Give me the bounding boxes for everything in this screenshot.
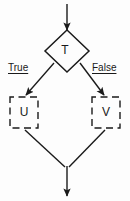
edge-label-false: False	[92, 62, 116, 73]
decision-label-t: T	[0, 44, 130, 56]
edge-label-true: True	[8, 62, 28, 73]
box-label-u: U	[10, 106, 38, 118]
v-to-merge-line	[69, 130, 105, 167]
u-to-merge-line	[25, 130, 65, 167]
flowchart-diagram: T U V True False	[0, 0, 130, 201]
true-branch-arrow	[26, 63, 54, 95]
box-label-v: V	[92, 106, 120, 118]
flowchart-canvas	[0, 0, 130, 201]
